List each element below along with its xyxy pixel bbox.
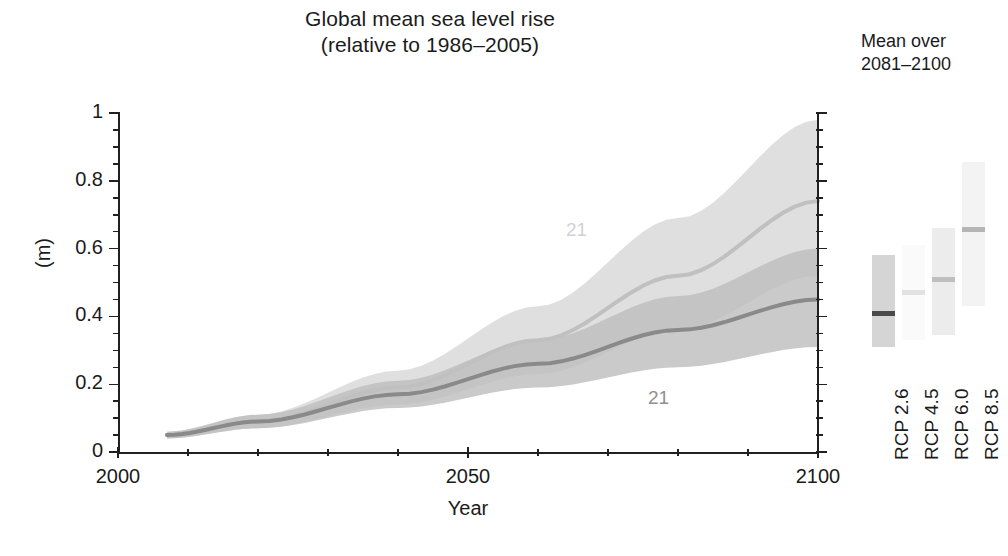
y-tick-minor-right xyxy=(816,367,823,369)
y-tick-major xyxy=(109,112,120,114)
y-tick-major-right xyxy=(816,316,827,318)
y-tick-minor xyxy=(113,231,120,233)
y-tick-minor-right xyxy=(816,400,823,402)
y-tick-minor-right xyxy=(816,265,823,267)
rcp-range-bar xyxy=(872,255,895,347)
y-tick-minor xyxy=(113,367,120,369)
x-tick-minor xyxy=(257,449,259,456)
legend-heading-line2: 2081–2100 xyxy=(861,53,951,76)
y-tick-minor-right xyxy=(816,299,823,301)
x-tick-minor xyxy=(187,449,189,456)
y-tick-label: 0.8 xyxy=(13,168,103,191)
y-tick-major-right xyxy=(816,112,827,114)
y-axis-label: (m) xyxy=(32,238,55,268)
y-tick-major xyxy=(109,180,120,182)
y-tick-minor-right xyxy=(816,417,823,419)
legend-panel: Mean over 2081–2100 RCP 2.6RCP 4.5RCP 6.… xyxy=(843,0,1008,556)
y-tick-minor-right xyxy=(816,214,823,216)
y-tick-minor xyxy=(113,282,120,284)
x-tick-minor xyxy=(327,449,329,456)
y-tick-minor xyxy=(113,400,120,402)
y-tick-label: 0.2 xyxy=(13,371,103,394)
x-tick-minor xyxy=(677,449,679,456)
y-tick-major-right xyxy=(816,384,827,386)
rcp-label-rcp26: RCP 2.6 xyxy=(891,389,913,460)
y-tick-minor-right xyxy=(816,333,823,335)
y-tick-minor xyxy=(113,265,120,267)
legend-heading: Mean over 2081–2100 xyxy=(861,30,951,76)
y-tick-minor-right xyxy=(816,163,823,165)
y-tick-minor-right xyxy=(816,350,823,352)
plot-area xyxy=(118,113,818,452)
rcp-range-bar xyxy=(962,162,985,306)
x-tick-minor xyxy=(607,449,609,456)
y-tick-major-right xyxy=(816,248,827,250)
x-tick-major xyxy=(117,447,119,458)
rcp-median-line xyxy=(902,290,925,295)
x-tick-minor xyxy=(397,449,399,456)
y-tick-major xyxy=(109,248,120,250)
x-axis-label: Year xyxy=(118,497,818,520)
y-tick-minor xyxy=(113,146,120,148)
figure-root: Global mean sea level rise (relative to … xyxy=(0,0,1008,556)
x-tick-minor xyxy=(747,449,749,456)
y-tick-label: 0.6 xyxy=(13,236,103,259)
y-tick-major-right xyxy=(816,180,827,182)
y-tick-minor xyxy=(113,299,120,301)
chart-title-line1: Global mean sea level rise xyxy=(305,7,555,30)
y-tick-minor-right xyxy=(816,231,823,233)
chart-title-line2: (relative to 1986–2005) xyxy=(180,32,680,58)
y-tick-minor xyxy=(113,214,120,216)
annotation-rcp85: 21 xyxy=(566,219,587,241)
y-tick-minor xyxy=(113,417,120,419)
y-tick-minor xyxy=(113,434,120,436)
rcp-label-rcp45: RCP 4.5 xyxy=(921,389,943,460)
y-tick-minor xyxy=(113,350,120,352)
x-tick-label: 2050 xyxy=(408,465,528,488)
rcp-median-line xyxy=(872,311,895,316)
rcp-range-bar xyxy=(932,228,955,335)
y-tick-label: 1 xyxy=(13,100,103,123)
y-tick-minor xyxy=(113,129,120,131)
y-tick-minor-right xyxy=(816,146,823,148)
rcp-label-rcp85: RCP 8.5 xyxy=(981,389,1003,460)
rcp-label-rcp60: RCP 6.0 xyxy=(951,389,973,460)
y-tick-minor-right xyxy=(816,129,823,131)
x-tick-label: 2000 xyxy=(58,465,178,488)
y-tick-major xyxy=(109,384,120,386)
rcp-median-line xyxy=(932,277,955,282)
chart-title: Global mean sea level rise (relative to … xyxy=(180,6,680,58)
y-tick-major xyxy=(109,316,120,318)
y-tick-label: 0 xyxy=(13,439,103,462)
y-tick-label: 0.4 xyxy=(13,303,103,326)
y-tick-minor xyxy=(113,333,120,335)
legend-heading-line1: Mean over xyxy=(861,31,946,51)
y-tick-minor xyxy=(113,163,120,165)
rcp-median-line xyxy=(962,227,985,232)
x-tick-minor xyxy=(537,449,539,456)
y-tick-minor-right xyxy=(816,197,823,199)
x-tick-major xyxy=(817,447,819,458)
plot-canvas xyxy=(118,113,818,452)
y-tick-minor xyxy=(113,197,120,199)
x-tick-major xyxy=(467,447,469,458)
y-tick-minor-right xyxy=(816,282,823,284)
annotation-rcp26: 21 xyxy=(648,387,669,409)
y-tick-minor-right xyxy=(816,434,823,436)
